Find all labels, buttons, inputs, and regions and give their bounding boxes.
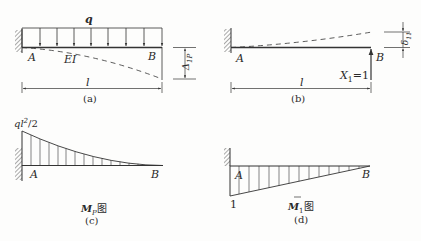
max-value-label: 1 — [230, 199, 237, 210]
caption-d: (d) — [294, 215, 308, 225]
diagram-graphics — [0, 0, 421, 241]
support-a-label: A — [235, 170, 243, 181]
span-label: l — [300, 77, 304, 88]
support-b-label: B — [148, 51, 156, 62]
fixed-support-icon — [15, 148, 22, 180]
force-method-diagram: q A EI B l Δ1P (a) A B l X1=1 δ11 (b) ql… — [0, 0, 421, 241]
caption-a: (a) — [83, 94, 97, 104]
support-b-label: B — [362, 169, 370, 180]
load-label: q — [85, 14, 93, 25]
span-label: l — [86, 77, 90, 88]
support-b-label: B — [376, 52, 384, 63]
max-moment-label: ql2/2 — [14, 119, 38, 129]
support-a-label: A — [30, 169, 38, 180]
unit-force-label: X1=1 — [340, 70, 369, 81]
moment-curve — [22, 131, 163, 166]
fixed-support-icon — [224, 29, 231, 52]
stiffness-label: EI — [64, 54, 76, 65]
figure-d — [224, 148, 370, 197]
deflection-label: δ11 — [401, 32, 410, 45]
moment-hatching — [31, 135, 138, 165]
support-a-label: A — [28, 52, 36, 63]
caption-c: (c) — [85, 216, 98, 226]
support-a-label: A — [236, 53, 244, 64]
caption-b: (b) — [291, 94, 305, 104]
deflection-label: Δ1P — [181, 54, 191, 70]
diagram-title-d: M1图 — [288, 202, 314, 212]
fixed-support-icon — [224, 148, 230, 166]
support-b-label: B — [151, 169, 159, 180]
load-arrows — [22, 28, 162, 47]
deflected-shape — [231, 32, 372, 48]
diagram-title-c: MP图 — [81, 204, 107, 214]
deflected-shape — [22, 48, 162, 80]
figure-a — [15, 28, 196, 93]
fixed-support-icon — [15, 30, 22, 52]
